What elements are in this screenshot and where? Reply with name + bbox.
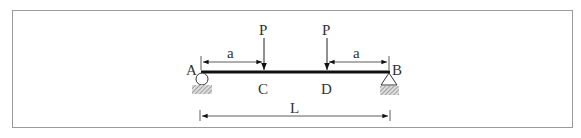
- dim-label-a-right: a: [353, 45, 360, 61]
- label-a: A: [186, 62, 197, 78]
- dim-label-a-left: a: [227, 45, 234, 61]
- dim-label-l: L: [290, 100, 299, 116]
- beam-diagram: A B P C P D a a L: [0, 0, 581, 138]
- point-label-c: C: [258, 81, 268, 97]
- point-label-d: D: [321, 81, 332, 97]
- label-b: B: [392, 62, 402, 78]
- load-label-d: P: [322, 22, 330, 38]
- load-label-c: P: [259, 22, 267, 38]
